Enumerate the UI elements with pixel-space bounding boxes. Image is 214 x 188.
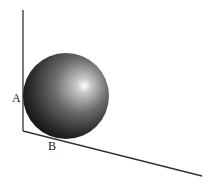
label-b: B bbox=[48, 139, 56, 153]
diagram-canvas: A B bbox=[0, 0, 214, 188]
sphere bbox=[23, 53, 109, 139]
inclined-floor bbox=[23, 131, 202, 176]
label-a: A bbox=[12, 91, 21, 105]
